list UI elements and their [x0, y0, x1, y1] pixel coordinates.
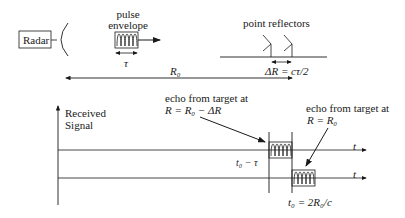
time-label-1: t	[353, 140, 356, 152]
t0-minus-tau-label: t₀ − τ	[236, 157, 258, 169]
range-label: R₀	[170, 65, 181, 77]
echo-far-line1: echo from target at	[306, 102, 389, 114]
delta-r-label: ΔR = cτ/2	[265, 65, 308, 77]
radar-label: Radar	[23, 34, 49, 46]
pulse-title-line2: envelope	[101, 19, 155, 31]
y-axis-label-line2: Signal	[65, 119, 93, 131]
echo-near-line1: echo from target at	[165, 92, 248, 104]
echo-near-line2: R = R₀ − ΔR	[165, 104, 221, 116]
antenna-dish-icon	[61, 23, 68, 56]
echo-far-line2: R = R₀	[307, 114, 337, 126]
echo-near-pointer-arrow	[200, 117, 265, 142]
reflector-1-icon	[263, 35, 271, 57]
pulse-envelope-icon	[115, 32, 160, 48]
y-axis-label-line1: Received	[65, 107, 106, 119]
reflector-2-icon	[284, 35, 292, 57]
tau-label: τ	[124, 57, 128, 69]
time-label-2: t	[353, 168, 356, 180]
t0-label: t₀ = 2R₀/c	[288, 196, 332, 208]
echo-far-pointer-arrow	[306, 128, 328, 166]
reflectors-title: point reflectors	[243, 17, 310, 29]
